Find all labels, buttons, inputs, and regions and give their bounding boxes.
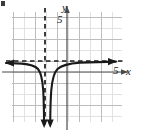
- axes-group: [2, 6, 128, 130]
- x-axis-label: x: [126, 66, 131, 77]
- y-axis-tick-label-5: 5: [57, 14, 63, 25]
- right-branch-down-arrowhead: [47, 120, 54, 129]
- right-branch: [50, 62, 116, 124]
- curve-group: [6, 62, 116, 124]
- asymptote-group: [6, 8, 124, 128]
- curve-arrowheads: [5, 58, 117, 128]
- graph-canvas: [12, 12, 122, 122]
- y-axis-label: y: [62, 2, 67, 13]
- plot-area: [12, 12, 122, 122]
- left-branch-down-arrowhead: [41, 120, 48, 129]
- graph-figure: y x 5 5: [0, 0, 141, 138]
- corner-mark-icon: [1, 1, 5, 6]
- x-axis-tick-label-5: 5: [113, 65, 119, 76]
